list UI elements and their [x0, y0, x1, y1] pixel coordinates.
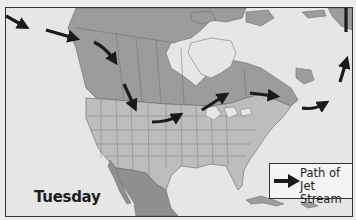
legend-label: Path of Jet Stream — [300, 167, 353, 206]
greenland-edge — [328, 8, 352, 30]
legend: Path of Jet Stream — [269, 163, 353, 199]
arrow-right-icon — [274, 174, 300, 188]
newfoundland — [296, 68, 314, 84]
arctic-island — [246, 10, 274, 26]
map-frame: Tuesday Path of Jet Stream — [5, 7, 353, 217]
jet-stream-arrow-1 — [6, 16, 24, 26]
arctic-island — [302, 10, 326, 18]
day-label: Tuesday — [34, 188, 100, 206]
jet-stream-arrow-9 — [340, 62, 346, 82]
legend-line-2: Jet Stream — [300, 180, 353, 206]
jet-stream-arrow-8 — [302, 104, 324, 109]
